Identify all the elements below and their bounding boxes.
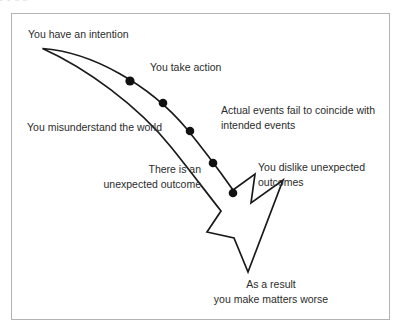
label-as-a-result-you-make-matters-worse: As a result you make matters worse (185, 277, 357, 307)
label-actual-events-fail: Actual events fail to coincide with inte… (221, 103, 396, 133)
label-there-is-an-unexpected-outcome: There is an unexpected outcome (66, 162, 201, 192)
clipped-text-above-figure: y y g g (0, 0, 411, 3)
diagram-figure: y y g g You have an intention You take a… (0, 0, 411, 334)
label-you-misunderstand-the-world: You misunderstand the world (27, 120, 162, 135)
label-you-have-an-intention: You have an intention (28, 27, 129, 42)
label-you-take-action: You take action (150, 60, 221, 75)
label-you-dislike-unexpected-outcomes: You dislike unexpected outcomes (258, 160, 393, 190)
